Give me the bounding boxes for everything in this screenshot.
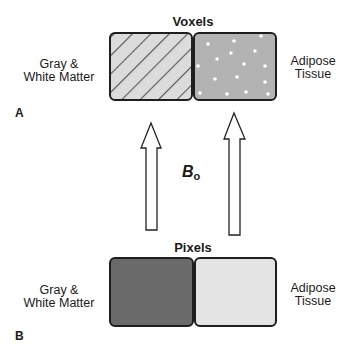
voxel-adipose-box — [194, 33, 276, 100]
label-line: Adipose — [280, 282, 346, 295]
b0-symbol: B — [182, 163, 194, 180]
pixel-left-label: Gray & White Matter — [14, 284, 104, 309]
panel-letter-b: B — [15, 329, 24, 343]
label-line: Gray & — [14, 284, 104, 297]
label-line: Tissue — [280, 295, 346, 308]
voxel-left-label: Gray & White Matter — [14, 58, 104, 83]
voxel-gray-white-matter-box — [110, 33, 192, 100]
arrow-up-right-icon — [224, 113, 245, 235]
voxel-right-label: Adipose Tissue — [280, 55, 346, 80]
voxels-title: Voxels — [133, 14, 253, 29]
label-line: Gray & — [14, 58, 104, 71]
panel-letter-a: A — [15, 106, 24, 120]
b0-subscript: o — [194, 170, 201, 182]
label-line: Tissue — [280, 68, 346, 81]
label-line: Adipose — [280, 55, 346, 68]
pixel-adipose-box — [195, 258, 276, 326]
pixel-right-label: Adipose Tissue — [280, 282, 346, 307]
label-line: White Matter — [14, 71, 104, 84]
pixels-title: Pixels — [133, 240, 253, 255]
pixel-gray-white-matter-box — [110, 258, 193, 326]
b0-field-label: Bo — [182, 163, 200, 182]
arrow-up-left-icon — [141, 123, 161, 230]
label-line: White Matter — [14, 297, 104, 310]
